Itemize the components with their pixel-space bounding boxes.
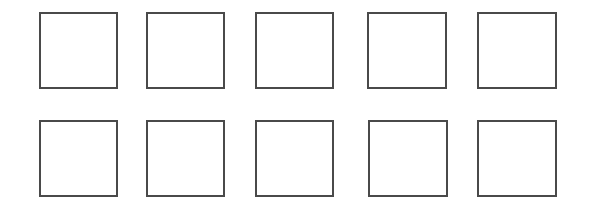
square-r2-c5 [477,120,557,197]
square-r2-c4 [368,120,448,197]
square-r2-c1 [39,120,118,197]
square-r1-c1 [39,12,118,89]
square-r1-c4 [367,12,447,89]
square-r2-c2 [146,120,225,197]
square-r1-c2 [146,12,225,89]
square-r1-c5 [477,12,557,89]
square-r2-c3 [255,120,334,197]
square-r1-c3 [255,12,334,89]
square-grid [0,0,589,198]
